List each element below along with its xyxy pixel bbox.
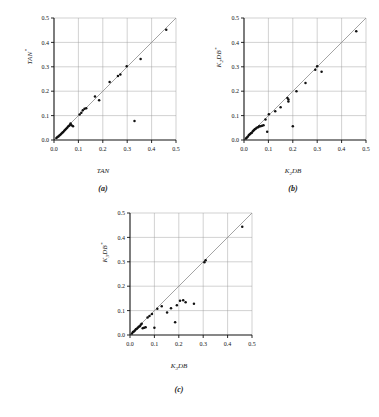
panel-c-x-axis-label: K3DB [114, 362, 244, 371]
svg-text:0.1: 0.1 [265, 146, 273, 152]
panel-c: K3DB* 0.00.10.20.30.40.50.00.10.20.30.40… [76, 199, 265, 379]
svg-text:0.2: 0.2 [99, 146, 107, 152]
svg-text:0.2: 0.2 [42, 88, 50, 94]
panel-c-scatter-svg: 0.00.10.20.30.40.50.00.10.20.30.40.5 [106, 205, 258, 357]
svg-text:0.2: 0.2 [232, 88, 240, 94]
panel-b-x-axis-label: K2DB [228, 167, 358, 176]
panel-a-x-axis-label-text: TAN [97, 167, 109, 175]
svg-text:0.2: 0.2 [175, 341, 183, 347]
svg-text:0.5: 0.5 [248, 341, 256, 347]
panel-a-scatter-svg: 0.00.10.20.30.40.50.00.10.20.30.40.5 [30, 10, 182, 162]
svg-text:0.3: 0.3 [42, 64, 50, 70]
panel-c-y-axis-label-sup: * [100, 242, 105, 245]
svg-text:0.3: 0.3 [199, 341, 207, 347]
svg-text:0.1: 0.1 [75, 146, 83, 152]
svg-text:0.2: 0.2 [289, 146, 297, 152]
svg-text:0.2: 0.2 [118, 283, 126, 289]
svg-text:0.4: 0.4 [118, 235, 126, 241]
svg-text:0.1: 0.1 [151, 341, 159, 347]
svg-text:0.4: 0.4 [232, 40, 240, 46]
svg-text:0.1: 0.1 [232, 113, 240, 119]
svg-text:0.0: 0.0 [118, 332, 126, 338]
panel-b-x-axis-label-tail: DB [292, 167, 301, 175]
svg-text:0.0: 0.0 [232, 137, 240, 143]
svg-text:0.1: 0.1 [118, 308, 126, 314]
panel-a-y-axis-label-sup: * [24, 49, 29, 52]
panel-a: TAN* 0.00.10.20.30.40.50.00.10.20.30.40.… [0, 4, 189, 184]
figure-root: TAN* 0.00.10.20.30.40.50.00.10.20.30.40.… [0, 0, 379, 417]
svg-text:0.5: 0.5 [118, 210, 126, 216]
svg-text:0.3: 0.3 [232, 64, 240, 70]
svg-text:0.5: 0.5 [42, 15, 50, 21]
panel-b-plot-area: K2DB* 0.00.10.20.30.40.50.00.10.20.30.40… [190, 4, 379, 184]
panel-c-plot-area: K3DB* 0.00.10.20.30.40.50.00.10.20.30.40… [76, 199, 265, 379]
svg-text:0.1: 0.1 [42, 113, 50, 119]
svg-text:0.0: 0.0 [240, 146, 248, 152]
svg-text:0.0: 0.0 [50, 146, 58, 152]
panel-a-plot-area: TAN* 0.00.10.20.30.40.50.00.10.20.30.40.… [0, 4, 189, 184]
svg-text:0.0: 0.0 [42, 137, 50, 143]
svg-text:0.4: 0.4 [148, 146, 156, 152]
svg-text:0.3: 0.3 [313, 146, 321, 152]
svg-text:0.3: 0.3 [123, 146, 131, 152]
svg-text:0.3: 0.3 [118, 259, 126, 265]
panel-b-y-axis-label-sup: * [214, 47, 219, 50]
panel-b-scatter-svg: 0.00.10.20.30.40.50.00.10.20.30.40.5 [220, 10, 372, 162]
panel-b: K2DB* 0.00.10.20.30.40.50.00.10.20.30.40… [190, 4, 379, 184]
svg-text:0.5: 0.5 [362, 146, 370, 152]
panel-c-x-axis-label-tail: DB [178, 362, 187, 370]
panel-a-caption: (a) [38, 184, 168, 193]
svg-text:0.4: 0.4 [338, 146, 346, 152]
svg-text:0.4: 0.4 [42, 40, 50, 46]
svg-text:0.5: 0.5 [232, 15, 240, 21]
svg-text:0.5: 0.5 [172, 146, 180, 152]
svg-text:0.0: 0.0 [126, 341, 134, 347]
panel-b-caption: (b) [228, 184, 358, 193]
panel-c-caption: (c) [114, 385, 244, 394]
panel-a-x-axis-label: TAN [38, 167, 168, 175]
svg-text:0.4: 0.4 [224, 341, 232, 347]
